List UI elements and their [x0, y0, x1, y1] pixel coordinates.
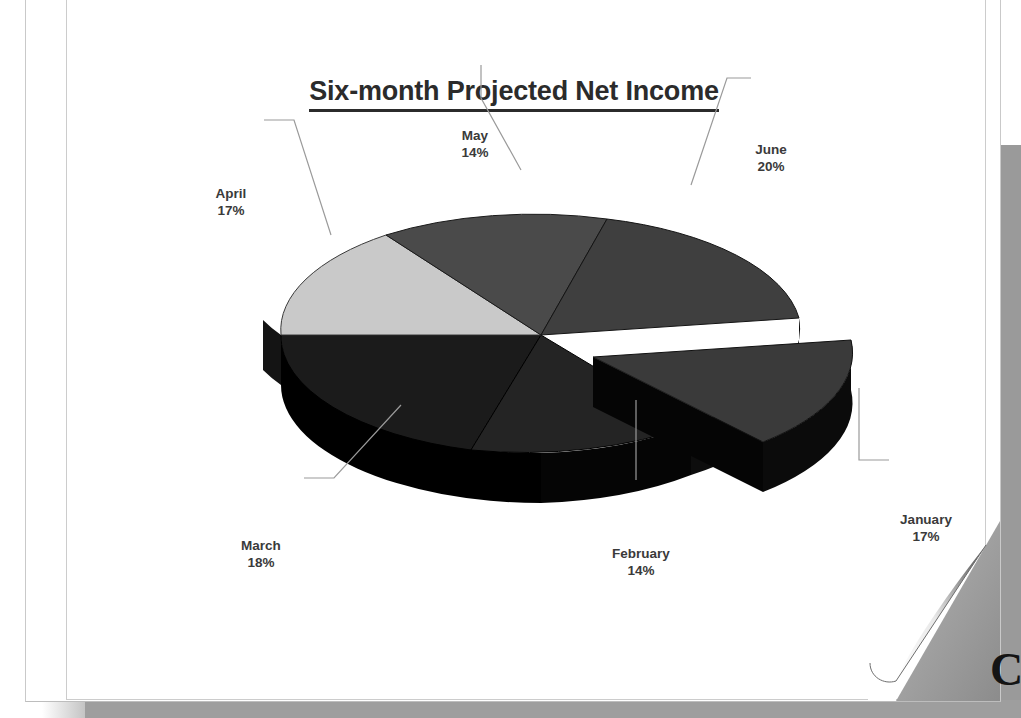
pie-label-march-name: March [241, 538, 281, 553]
pie-label-june-name: June [755, 142, 787, 157]
paper-sheet: Six-month Projected Net Income [25, 0, 1001, 702]
pie-label-april-value: 17% [186, 203, 276, 220]
pie-label-may-name: May [462, 128, 488, 143]
pie-label-june-value: 20% [726, 159, 816, 176]
page-background-right [1000, 145, 1021, 718]
pie-label-april: April 17% [186, 186, 276, 220]
pie-side-april [263, 320, 281, 385]
pie-label-february-value: 14% [586, 563, 696, 580]
pie-chart [51, 0, 951, 640]
pie-label-april-name: April [216, 186, 247, 201]
pie-label-may-value: 14% [430, 145, 520, 162]
pie-label-march-value: 18% [211, 555, 311, 572]
pie-label-january-value: 17% [871, 529, 981, 546]
corner-glyph-text: C [990, 644, 1021, 695]
pie-label-february-name: February [612, 546, 670, 561]
scanned-page-scene: Six-month Projected Net Income [0, 0, 1021, 718]
pie-label-may: May 14% [430, 128, 520, 162]
pie-label-june: June 20% [726, 142, 816, 176]
pie-label-january-name: January [900, 512, 952, 527]
pie-label-february: February 14% [586, 546, 696, 580]
pie-label-march: March 18% [211, 538, 311, 572]
leader-line-january [859, 388, 889, 460]
pie-label-january: January 17% [871, 512, 981, 546]
page-background-bottom [85, 700, 1021, 718]
corner-glyph: C [984, 643, 1021, 699]
